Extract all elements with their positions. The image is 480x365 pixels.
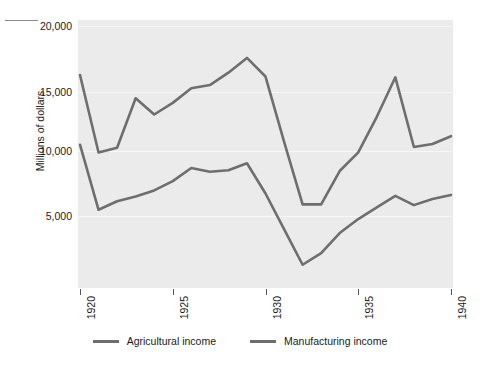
y-tick-20000: 20,000	[14, 20, 72, 32]
line-manufacturing-income	[80, 58, 451, 204]
x-tick-mark-1925	[173, 289, 174, 295]
y-tick-10000: 10,000	[14, 145, 72, 157]
legend-label-agricultural: Agricultural income	[127, 335, 216, 347]
x-tick-label-1925: 1925	[178, 296, 190, 319]
x-tick-mark-1930	[266, 289, 267, 295]
legend-line-swatch-agricultural	[93, 340, 119, 343]
y-axis-ticks: Millions of dollars 20,000 15,000 10,000…	[12, 0, 72, 365]
x-tick-label-1935: 1935	[363, 296, 375, 319]
legend-item-agricultural[interactable]: Agricultural income	[93, 335, 216, 347]
y-tick-15000: 15,000	[14, 86, 72, 98]
y-tick-5000: 5,000	[14, 210, 72, 222]
x-tick-mark-1935	[358, 289, 359, 295]
legend-label-manufacturing: Manufacturing income	[284, 335, 387, 347]
legend-line-swatch-manufacturing	[250, 340, 276, 343]
series-lines	[78, 20, 453, 288]
chart-legend: Agricultural income Manufacturing income	[0, 335, 480, 347]
y-axis-title: Millions of dollars	[34, 41, 46, 221]
x-tick-label-1940: 1940	[456, 296, 468, 319]
x-tick-mark-1920	[80, 289, 81, 295]
line-chart: Millions of dollars 20,000 15,000 10,000…	[0, 0, 480, 365]
x-tick-label-1930: 1930	[271, 296, 283, 319]
line-agricultural-income	[80, 145, 451, 265]
plot-area	[78, 20, 453, 288]
legend-item-manufacturing[interactable]: Manufacturing income	[250, 335, 387, 347]
x-tick-mark-1940	[451, 289, 452, 295]
x-tick-label-1920: 1920	[85, 296, 97, 319]
